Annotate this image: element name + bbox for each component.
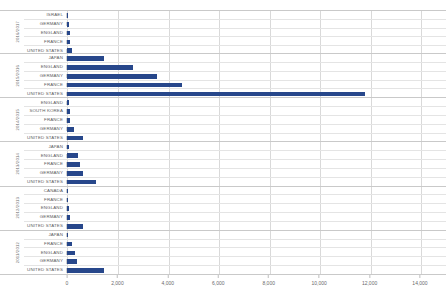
table-row[interactable]: UNITED STATES (24, 134, 446, 143)
group-label: 2015/2016 (10, 54, 24, 97)
bar[interactable] (67, 136, 83, 141)
bar[interactable] (67, 189, 68, 194)
table-row[interactable]: UNITED STATES (24, 89, 446, 98)
bar[interactable] (67, 74, 157, 79)
category-label: ENGLAND (24, 101, 67, 105)
bar[interactable] (67, 22, 69, 27)
table-row[interactable]: FRANCE (24, 240, 446, 249)
table-row[interactable]: ENGLAND (24, 63, 446, 72)
table-row[interactable]: FRANCE (24, 116, 446, 125)
category-label: ISRAEL (24, 13, 67, 17)
category-label: JAPAN (24, 56, 67, 60)
table-row[interactable]: GERMANY (24, 169, 446, 178)
tick-mark (268, 275, 269, 278)
table-row[interactable]: FRANCE (24, 160, 446, 169)
table-row[interactable]: FRANCE (24, 37, 446, 46)
bar[interactable] (67, 83, 182, 88)
group-rows: JAPANFRANCEENGLANDGERMANYUNITED STATES (24, 231, 446, 274)
tick-mark (218, 275, 219, 278)
x-axis-tick: 6,000 (212, 275, 225, 286)
category-label: GERMANY (24, 22, 67, 26)
x-axis: 02,0004,0006,0008,00010,00012,00014,000 (67, 275, 420, 295)
x-axis-tick: 8,000 (262, 275, 275, 286)
bar[interactable] (67, 48, 72, 53)
bar-cell (67, 72, 446, 81)
bar-cell (67, 169, 446, 178)
table-row[interactable]: GERMANY (24, 72, 446, 81)
category-label: ENGLAND (24, 251, 67, 255)
category-label: ENGLAND (24, 65, 67, 69)
bar[interactable] (67, 153, 78, 158)
group-label: 2013/2014 (10, 142, 24, 185)
bar[interactable] (67, 100, 69, 105)
bar[interactable] (67, 259, 77, 264)
bar[interactable] (67, 268, 104, 273)
bar[interactable] (67, 65, 133, 70)
bar-cell (67, 240, 446, 249)
table-row[interactable]: ENGLAND (24, 248, 446, 257)
tick-mark (117, 275, 118, 278)
table-row[interactable]: JAPAN (24, 54, 446, 63)
x-axis-tick: 0 (66, 275, 69, 286)
table-row[interactable]: ENGLAND (24, 151, 446, 160)
table-row[interactable]: JAPAN (24, 142, 446, 151)
category-label: FRANCE (24, 162, 67, 166)
table-row[interactable]: GERMANY (24, 257, 446, 266)
group-label: 2014/2015 (10, 98, 24, 141)
group-label-text: 2011/2012 (15, 242, 20, 263)
bar[interactable] (67, 162, 80, 167)
bar-cell (67, 266, 446, 275)
bar[interactable] (67, 171, 83, 176)
category-label: UNITED STATES (24, 92, 67, 96)
table-row[interactable]: ISRAEL (24, 11, 446, 20)
x-axis-tick: 12,000 (362, 275, 377, 286)
bar[interactable] (67, 215, 70, 220)
chart-group: 2016/2017ISRAELGERMANYENGLANDFRANCEUNITE… (0, 10, 446, 54)
table-row[interactable]: UNITED STATES (24, 222, 446, 231)
table-row[interactable]: FRANCE (24, 195, 446, 204)
table-row[interactable]: JAPAN (24, 231, 446, 240)
x-axis-tick: 14,000 (412, 275, 427, 286)
bar[interactable] (67, 233, 68, 238)
bar-cell (67, 81, 446, 90)
bar[interactable] (67, 224, 83, 229)
table-row[interactable]: SOUTH KOREA (24, 107, 446, 116)
bar-cell (67, 151, 446, 160)
category-label: GERMANY (24, 215, 67, 219)
bar[interactable] (67, 40, 70, 45)
bar[interactable] (67, 206, 69, 211)
bar-cell (67, 116, 446, 125)
bar[interactable] (67, 13, 68, 18)
category-label: FRANCE (24, 83, 67, 87)
category-label: GERMANY (24, 259, 67, 263)
bar[interactable] (67, 109, 70, 114)
category-label: FRANCE (24, 118, 67, 122)
bar[interactable] (67, 145, 69, 150)
chart-group: 2015/2016JAPANENGLANDGERMANYFRANCEUNITED… (0, 54, 446, 98)
table-row[interactable]: GERMANY (24, 213, 446, 222)
bar[interactable] (67, 31, 70, 36)
bar-cell (67, 11, 446, 20)
bar[interactable] (67, 127, 74, 132)
table-row[interactable]: ENGLAND (24, 98, 446, 107)
bar-cell (67, 178, 446, 187)
bar[interactable] (67, 180, 96, 185)
table-row[interactable]: UNITED STATES (24, 178, 446, 187)
bar[interactable] (67, 242, 72, 247)
bar[interactable] (67, 56, 104, 61)
table-row[interactable]: UNITED STATES (24, 266, 446, 275)
bar[interactable] (67, 118, 70, 123)
group-label-text: 2012/2013 (15, 197, 20, 219)
bar[interactable] (67, 92, 365, 97)
table-row[interactable]: GERMANY (24, 20, 446, 29)
table-row[interactable]: FRANCE (24, 81, 446, 90)
table-row[interactable]: ENGLAND (24, 204, 446, 213)
chart-group: 2011/2012JAPANFRANCEENGLANDGERMANYUNITED… (0, 231, 446, 275)
table-row[interactable]: CANADA (24, 187, 446, 196)
tick-mark (369, 275, 370, 278)
bar[interactable] (67, 198, 68, 203)
bar-cell (67, 63, 446, 72)
table-row[interactable]: GERMANY (24, 125, 446, 134)
table-row[interactable]: ENGLAND (24, 29, 446, 38)
bar[interactable] (67, 251, 75, 256)
